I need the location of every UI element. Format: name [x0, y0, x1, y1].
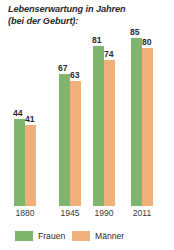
bar-female-1945 — [59, 74, 70, 206]
bar-value-male-1990: 74 — [104, 50, 114, 59]
bar-male-1990 — [104, 60, 115, 206]
legend-label-maenner: Männer — [95, 231, 124, 241]
bar-value-male-1880: 41 — [25, 115, 35, 124]
legend-item-frauen: Frauen — [15, 230, 65, 242]
axis-label-2011: 2011 — [127, 208, 157, 218]
bar-value-male-2011: 80 — [142, 38, 152, 47]
bar-male-1945 — [70, 81, 81, 206]
bar-female-1990 — [93, 46, 104, 206]
legend-label-frauen: Frauen — [38, 231, 65, 241]
bar-value-male-1945: 63 — [70, 71, 80, 80]
axis-label-1990: 1990 — [89, 208, 119, 218]
legend-item-maenner: Männer — [72, 230, 124, 242]
chart-title: Lebenserwartung in Jahren (bei der Gebur… — [8, 4, 168, 27]
plot-area: 44 41 67 63 81 74 85 80 — [0, 28, 174, 206]
axis-label-1880: 1880 — [10, 208, 40, 218]
bar-value-female-1945: 67 — [58, 64, 68, 73]
x-axis-labels: 1880 1945 1990 2011 — [0, 208, 174, 222]
bar-female-2011 — [131, 38, 142, 206]
chart-title-line-2: (bei der Geburt): — [8, 16, 168, 28]
chart-legend: Frauen Männer — [0, 230, 174, 244]
bar-male-2011 — [142, 48, 153, 206]
bar-female-1880 — [14, 119, 25, 206]
legend-swatch-frauen-icon — [15, 231, 33, 241]
life-expectancy-bar-chart: Lebenserwartung in Jahren (bei der Gebur… — [0, 0, 174, 250]
legend-swatch-maenner-icon — [72, 231, 90, 241]
axis-label-1945: 1945 — [55, 208, 85, 218]
chart-title-line-1: Lebenserwartung in Jahren — [8, 4, 168, 16]
bar-value-female-2011: 85 — [130, 28, 140, 37]
bar-value-female-1880: 44 — [13, 109, 23, 118]
bar-value-female-1990: 81 — [92, 36, 102, 45]
bar-male-1880 — [25, 125, 36, 206]
